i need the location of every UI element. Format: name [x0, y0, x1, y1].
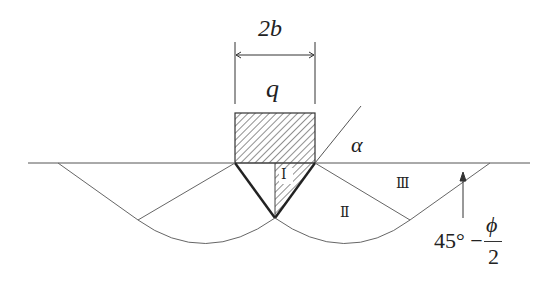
zone-1-label: Ⅰ — [281, 168, 287, 182]
angle-label-denominator: 2 — [488, 246, 499, 268]
alpha-label: α — [351, 134, 363, 156]
footing-width-label: 2b — [258, 16, 282, 40]
bearing-capacity-diagram: 2b q α Ⅰ Ⅱ Ⅲ 45° − ϕ 2 — [0, 0, 551, 281]
load-label: q — [266, 76, 279, 102]
footing — [235, 113, 315, 163]
angle-label-numerator: ϕ — [486, 214, 497, 236]
zone-3-label: Ⅲ — [396, 177, 410, 191]
fraction-bar — [484, 241, 502, 242]
angle-arrow — [460, 172, 466, 218]
angle-label-prefix: 45° − — [434, 230, 483, 252]
zone-2-label: Ⅱ — [340, 206, 350, 220]
